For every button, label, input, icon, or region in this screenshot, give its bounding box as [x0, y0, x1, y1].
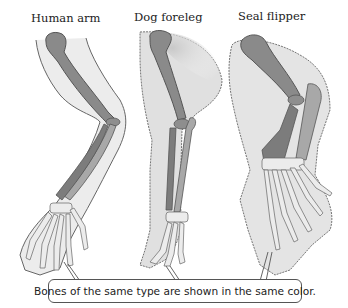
seal-flipper-diagram	[229, 35, 332, 275]
homologous-limbs-illustration	[0, 0, 348, 308]
dog-foreleg-diagram	[140, 31, 224, 268]
human-arm-diagram	[20, 32, 126, 275]
caption-callout: Bones of the same type are shown in the …	[48, 279, 302, 303]
